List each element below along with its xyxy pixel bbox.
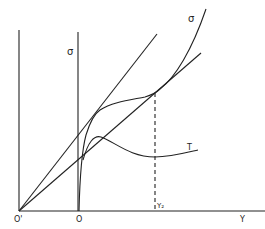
origin-label: O bbox=[76, 215, 82, 224]
diagram-canvas: O' O σ σ T Y₂ Y bbox=[0, 0, 265, 229]
sigma-curve-label: σ bbox=[188, 13, 195, 24]
origin-prime-label: O' bbox=[14, 215, 23, 224]
sigma-axis-label: σ bbox=[67, 46, 74, 57]
y2-label: Y₂ bbox=[156, 202, 164, 210]
lower-tangent-line bbox=[19, 53, 201, 211]
tau-curve-label: T bbox=[186, 143, 192, 152]
x-axis-label: Y bbox=[239, 215, 245, 224]
upper-tangent-line bbox=[19, 34, 157, 211]
stress-strain-diagram: O' O σ σ T Y₂ Y bbox=[0, 0, 265, 229]
